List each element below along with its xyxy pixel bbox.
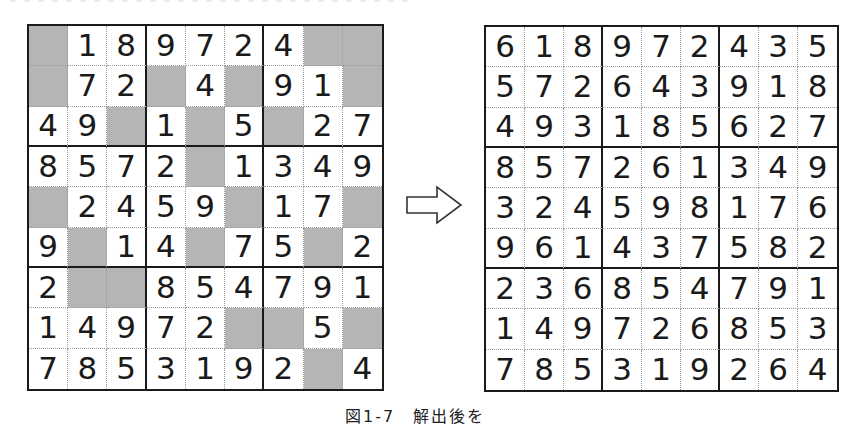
digit-cell: 1 [29, 308, 68, 348]
digit-cell: 5 [603, 188, 642, 228]
digit-cell: 4 [525, 309, 564, 349]
digit-cell: 2 [759, 108, 798, 148]
digit-cell: 4 [486, 108, 525, 148]
digit-cell: 6 [564, 269, 603, 309]
digit-cell: 9 [681, 350, 720, 390]
digit-cell: 1 [603, 108, 642, 148]
digit-cell: 7 [798, 108, 837, 148]
digit-cell: 5 [107, 349, 146, 389]
digit-cell: 3 [720, 148, 759, 188]
digit-cell: 4 [642, 67, 681, 107]
digit-cell: 1 [525, 27, 564, 67]
digit-cell: 9 [759, 269, 798, 309]
digit-cell: 4 [564, 188, 603, 228]
digit-cell: 4 [225, 268, 264, 308]
digit-cell: 3 [603, 350, 642, 390]
digit-cell: 7 [564, 148, 603, 188]
digit-cell: 5 [486, 67, 525, 107]
digit-cell: 1 [264, 187, 303, 227]
digit-cell: 8 [564, 27, 603, 67]
digit-cell: 2 [147, 147, 186, 187]
digit-cell: 1 [486, 309, 525, 349]
digit-cell: 1 [681, 148, 720, 188]
digit-cell: 4 [186, 66, 225, 106]
digit-cell: 8 [603, 269, 642, 309]
digit-cell: 5 [304, 308, 343, 348]
empty-cell [29, 187, 68, 227]
empty-cell [304, 26, 343, 66]
digit-cell: 8 [107, 26, 146, 66]
empty-cell [107, 107, 146, 147]
digit-cell: 1 [564, 229, 603, 269]
digit-cell: 9 [225, 349, 264, 389]
empty-cell [68, 268, 107, 308]
empty-cell [186, 147, 225, 187]
digit-cell: 6 [759, 350, 798, 390]
digit-cell: 9 [642, 188, 681, 228]
empty-cell [343, 187, 382, 227]
digit-cell: 2 [68, 187, 107, 227]
digit-cell: 1 [225, 147, 264, 187]
digit-cell: 6 [486, 27, 525, 67]
digit-cell: 4 [798, 350, 837, 390]
digit-cell: 2 [642, 309, 681, 349]
digit-cell: 8 [759, 229, 798, 269]
digit-cell: 2 [264, 349, 303, 389]
empty-cell [264, 107, 303, 147]
digit-cell: 7 [147, 308, 186, 348]
digit-cell: 4 [147, 228, 186, 268]
digit-cell: 6 [525, 229, 564, 269]
digit-cell: 6 [603, 67, 642, 107]
empty-cell [264, 308, 303, 348]
digit-cell: 5 [186, 268, 225, 308]
digit-cell: 5 [681, 108, 720, 148]
digit-cell: 9 [525, 108, 564, 148]
digit-cell: 4 [264, 26, 303, 66]
digit-cell: 7 [603, 309, 642, 349]
figure-caption: 図1-7 解出後を [345, 403, 485, 427]
digit-cell: 7 [264, 268, 303, 308]
digit-cell: 8 [29, 147, 68, 187]
digit-cell: 5 [564, 350, 603, 390]
digit-cell: 3 [264, 147, 303, 187]
digit-cell: 9 [264, 66, 303, 106]
digit-cell: 9 [68, 107, 107, 147]
digit-cell: 4 [720, 27, 759, 67]
digit-cell: 9 [720, 67, 759, 107]
empty-cell [68, 228, 107, 268]
digit-cell: 1 [304, 66, 343, 106]
digit-cell: 8 [642, 108, 681, 148]
digit-cell: 4 [343, 349, 382, 389]
empty-cell [343, 26, 382, 66]
digit-cell: 5 [147, 187, 186, 227]
digit-cell: 7 [720, 269, 759, 309]
right-arrow-icon [405, 185, 463, 225]
digit-cell: 3 [798, 309, 837, 349]
empty-cell [147, 66, 186, 106]
empty-cell [343, 66, 382, 106]
empty-cell [304, 349, 343, 389]
digit-cell: 9 [29, 228, 68, 268]
digit-cell: 2 [343, 228, 382, 268]
digit-cell: 2 [798, 229, 837, 269]
digit-cell: 3 [681, 67, 720, 107]
digit-cell: 7 [68, 66, 107, 106]
digit-cell: 7 [343, 107, 382, 147]
digit-cell: 1 [186, 349, 225, 389]
digit-cell: 4 [681, 269, 720, 309]
digit-cell: 9 [603, 27, 642, 67]
digit-cell: 3 [642, 229, 681, 269]
digit-cell: 9 [564, 309, 603, 349]
digit-cell: 9 [798, 148, 837, 188]
digit-cell: 5 [642, 269, 681, 309]
digit-cell: 4 [759, 148, 798, 188]
digit-cell: 2 [603, 148, 642, 188]
empty-cell [343, 308, 382, 348]
empty-cell [225, 308, 264, 348]
digit-cell: 4 [603, 229, 642, 269]
digit-cell: 3 [759, 27, 798, 67]
digit-cell: 4 [304, 147, 343, 187]
digit-cell: 2 [720, 350, 759, 390]
digit-cell: 2 [186, 308, 225, 348]
digit-cell: 7 [225, 228, 264, 268]
